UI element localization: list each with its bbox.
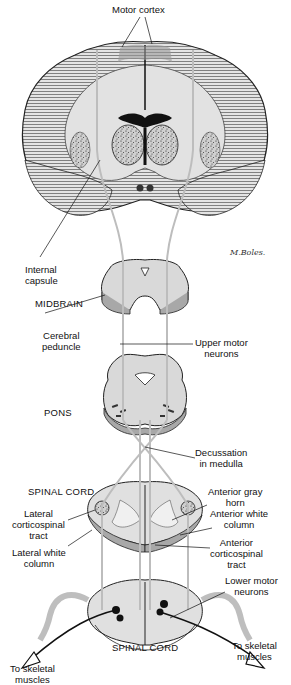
label-spinal-cord-upper: SPINAL CORD [28,486,94,497]
label-pons: PONS [44,407,72,418]
label-anterior-gray-line1: Anterior gray [208,486,262,497]
label-lateral-cst-line1: Lateral [12,508,65,519]
brain-section [22,42,267,216]
label-anterior-white-column: Anterior white column [210,508,268,530]
label-decussation-line2: in medulla [195,458,247,469]
label-lower-motor-line2: neurons [225,586,278,597]
label-anterior-gray-line2: horn [208,497,262,508]
label-midbrain: MIDBRAIN [35,298,83,309]
label-upper-motor-neurons: Upper motor neurons [195,337,248,359]
label-anterior-white-line2: column [210,519,268,530]
label-decussation-line1: Decussation [195,447,247,458]
label-anterior-cst-line3: tract [210,559,263,570]
label-skeletal-muscles-left: To skeletal muscles [10,663,55,685]
label-lower-motor-line1: Lower motor [225,575,278,586]
label-skeletal-muscles-right: To skeletal muscles [232,640,277,662]
label-motor-cortex: Motor cortex [112,4,165,15]
label-skeletal-right-line2: muscles [232,651,277,662]
label-lateral-white-line2: column [12,558,66,569]
label-lower-motor-neurons: Lower motor neurons [225,575,278,597]
label-lateral-corticospinal-tract: Lateral corticospinal tract [12,508,65,541]
label-cerebral-peduncle: Cerebral peduncle [42,330,81,352]
label-skeletal-left-line2: muscles [10,674,55,685]
label-spinal-cord-lower: SPINAL CORD [112,642,178,653]
label-anterior-cst-line1: Anterior [210,537,263,548]
label-upper-motor-neurons-line1: Upper motor [195,337,248,348]
label-anterior-corticospinal-tract: Anterior corticospinal tract [210,537,263,570]
pons-section [104,354,187,434]
label-anterior-gray-horn: Anterior gray horn [208,486,262,508]
label-lateral-cst-line2: corticospinal [12,519,65,530]
label-cerebral-peduncle-line2: peduncle [42,341,81,352]
label-lateral-cst-line3: tract [12,530,65,541]
label-cerebral-peduncle-line1: Cerebral [42,330,81,341]
midbrain-section [101,259,188,314]
label-anterior-cst-line2: corticospinal [210,548,263,559]
label-internal-capsule-line1: Internal [25,264,58,275]
label-skeletal-left-line1: To skeletal [10,663,55,674]
upper-spinal-cord-section [88,482,203,552]
label-lateral-white-column: Lateral white column [12,547,66,569]
label-upper-motor-neurons-line2: neurons [195,348,248,359]
label-decussation: Decussation in medulla [195,447,247,469]
label-lateral-white-line1: Lateral white [12,547,66,558]
label-internal-capsule: Internal capsule [25,264,58,286]
label-anterior-white-line1: Anterior white [210,508,268,519]
label-skeletal-right-line1: To skeletal [232,640,277,651]
label-internal-capsule-line2: capsule [25,275,58,286]
artist-signature: M.Boles. [230,248,265,257]
